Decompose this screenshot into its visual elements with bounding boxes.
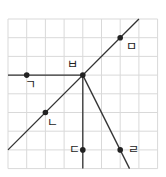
point-bieup xyxy=(80,72,86,78)
point-giyeok xyxy=(24,72,30,78)
steep-ray xyxy=(83,75,130,169)
label-bieup: ㅂ xyxy=(67,58,78,72)
points: ㄱㄴㄷㄹㅁㅂ xyxy=(24,35,139,157)
label-nieun: ㄴ xyxy=(47,116,58,130)
label-rieul: ㄹ xyxy=(128,143,139,157)
label-giyeok: ㄱ xyxy=(25,78,36,92)
point-mieum xyxy=(117,35,123,41)
point-rieul xyxy=(117,147,123,153)
label-mieum: ㅁ xyxy=(126,40,137,54)
label-digeut: ㄷ xyxy=(69,143,80,157)
geometry-diagram: ㄱㄴㄷㄹㅁㅂ xyxy=(0,0,166,177)
point-nieun xyxy=(43,110,49,116)
point-digeut xyxy=(80,147,86,153)
